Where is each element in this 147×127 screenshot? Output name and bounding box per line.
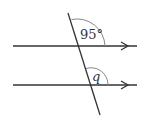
angle-label-bottom: q <box>92 69 100 84</box>
diagram-canvas: 95° q <box>0 0 147 127</box>
angle-label-top: 95° <box>80 27 103 42</box>
